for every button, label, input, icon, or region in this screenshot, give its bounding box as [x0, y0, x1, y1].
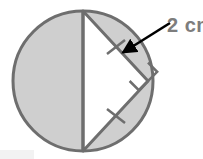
measurement-label: 2 cm	[167, 15, 203, 35]
geometry-figure: 2 cm	[0, 0, 203, 159]
scan-artifact	[0, 150, 34, 159]
